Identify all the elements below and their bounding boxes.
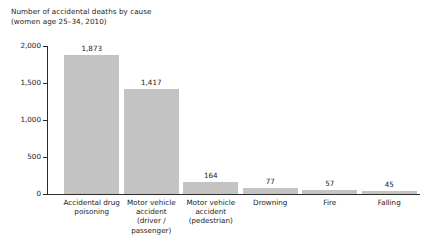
- bar-value-label: 57: [325, 179, 334, 188]
- y-tick-mark: [43, 120, 47, 121]
- bar: [362, 191, 417, 194]
- y-tick-mark: [43, 46, 47, 47]
- y-tick-mark: [43, 83, 47, 84]
- x-axis-line: [47, 194, 420, 195]
- x-axis-category-label: Falling: [353, 198, 425, 207]
- y-tick-label: 0: [36, 189, 41, 198]
- bar-group: 164Motor vehicle accident (pedestrian): [183, 46, 238, 194]
- bar-value-label: 1,873: [81, 44, 102, 53]
- y-tick-label: 500: [27, 152, 41, 161]
- plot-area: 05001,0001,5002,000 1,873Accidental drug…: [47, 46, 420, 194]
- bar-group: 57Fire: [302, 46, 357, 194]
- bar: [183, 182, 238, 194]
- bar: [64, 55, 119, 194]
- bar-chart: Number of accidental deaths by cause (wo…: [0, 0, 433, 243]
- bar-group: 1,873Accidental drug poisoning: [64, 46, 119, 194]
- bar: [124, 89, 179, 194]
- y-tick-label: 2,000: [20, 41, 41, 50]
- y-tick-label: 1,000: [20, 115, 41, 124]
- y-tick-mark: [43, 157, 47, 158]
- bar: [302, 190, 357, 194]
- bar-value-label: 1,417: [141, 78, 162, 87]
- y-tick-mark: [43, 194, 47, 195]
- bar-group: 45Falling: [362, 46, 417, 194]
- bar: [243, 188, 298, 194]
- bar-group: 77Drowning: [243, 46, 298, 194]
- bar-value-label: 45: [385, 180, 394, 189]
- bar-group: 1,417Motor vehicle accident (driver / pa…: [124, 46, 179, 194]
- chart-title: Number of accidental deaths by cause (wo…: [11, 7, 311, 26]
- y-tick-label: 1,500: [20, 78, 41, 87]
- bar-value-label: 77: [266, 177, 275, 186]
- bar-value-label: 164: [204, 171, 218, 180]
- y-axis-line: [47, 46, 48, 194]
